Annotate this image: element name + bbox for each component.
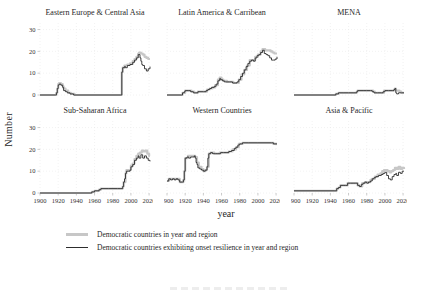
cropped-caption-text xyxy=(170,287,290,290)
legend-line-democratic-swatch xyxy=(66,233,88,236)
panel-plot xyxy=(164,19,280,98)
panel-plot: 1900192019401960198020002020 xyxy=(164,117,280,207)
panel-title: Asia & Pacific xyxy=(291,104,407,117)
x-tick-label: 1920 xyxy=(306,197,319,204)
x-tick-label: 1920 xyxy=(179,197,192,204)
series-democratic xyxy=(40,53,150,96)
series-resilient xyxy=(167,50,277,95)
x-tick-label: 2020 xyxy=(397,197,407,204)
series-resilient xyxy=(294,171,404,191)
panel-plot: 01020301900192019401960198020002020 xyxy=(20,117,153,207)
x-tick-label: 1960 xyxy=(88,197,101,204)
legend-label-resilient: Democratic countries exhibiting onset re… xyxy=(97,243,298,252)
x-tick-label: 1940 xyxy=(324,197,337,204)
x-tick-label: 1940 xyxy=(70,197,83,204)
series-democratic xyxy=(294,167,404,191)
x-tick-label: 1900 xyxy=(34,197,47,204)
panel-plot: 1900192019401960198020002020 xyxy=(291,117,407,207)
panel-western-countries: Western Countries19001920194019601980200… xyxy=(164,104,280,207)
x-tick-label: 1980 xyxy=(233,197,246,204)
x-axis-title: year xyxy=(4,208,428,219)
y-tick-label: 10 xyxy=(29,69,36,76)
figure: Number Eastern Europe & Central Asia0102… xyxy=(0,0,434,292)
series-democratic xyxy=(40,151,150,194)
x-tick-label: 1980 xyxy=(360,197,373,204)
y-tick-label: 30 xyxy=(29,26,36,33)
legend-line-resilient-swatch xyxy=(66,247,88,248)
y-axis-gutter: Number xyxy=(4,6,20,207)
x-tick-label: 2020 xyxy=(143,197,153,204)
x-tick-label: 1960 xyxy=(342,197,355,204)
panel-title: Latin America & Carribean xyxy=(164,6,280,19)
panel-title: Eastern Europe & Central Asia xyxy=(20,6,153,19)
y-tick-label: 0 xyxy=(32,91,35,98)
panels-grid: Eastern Europe & Central Asia0102030Lati… xyxy=(20,6,407,207)
panel-asia-pacific: Asia & Pacific19001920194019601980200020… xyxy=(291,104,407,207)
x-tick-label: 1980 xyxy=(106,197,119,204)
y-tick-label: 10 xyxy=(29,167,36,174)
y-tick-label: 20 xyxy=(29,48,36,55)
panel-title: Sub-Saharan Africa xyxy=(20,104,153,117)
x-tick-label: 1920 xyxy=(52,197,65,204)
x-tick-label: 2000 xyxy=(251,197,264,204)
series-democratic xyxy=(294,89,404,96)
y-tick-label: 20 xyxy=(29,146,36,153)
series-democratic xyxy=(167,143,277,182)
panel-plot xyxy=(291,19,407,98)
legend-item-resilient: Democratic countries exhibiting onset re… xyxy=(66,243,366,252)
panel-latin-america-carribean: Latin America & Carribean xyxy=(164,6,280,98)
legend: Democratic countries in year and region … xyxy=(4,230,428,252)
panel-plot: 0102030 xyxy=(20,19,153,98)
legend-item-democratic: Democratic countries in year and region xyxy=(66,230,366,239)
panel-mena: MENA xyxy=(291,6,407,98)
panel-eastern-europe-central-asia: Eastern Europe & Central Asia0102030 xyxy=(20,6,153,98)
legend-label-democratic: Democratic countries in year and region xyxy=(97,230,218,239)
x-tick-label: 1900 xyxy=(164,197,174,204)
panel-sub-saharan-africa: Sub-Saharan Africa0102030190019201940196… xyxy=(20,104,153,207)
x-tick-label: 2000 xyxy=(124,197,137,204)
plot-area: Number Eastern Europe & Central Asia0102… xyxy=(4,6,428,207)
y-tick-label: 0 xyxy=(32,189,35,196)
x-tick-label: 2000 xyxy=(378,197,391,204)
panel-title: Western Countries xyxy=(164,104,280,117)
y-axis-title: Number xyxy=(3,100,14,160)
series-democratic xyxy=(167,49,277,95)
x-tick-label: 1900 xyxy=(291,197,301,204)
y-tick-label: 30 xyxy=(29,124,36,131)
x-tick-label: 1940 xyxy=(197,197,210,204)
x-tick-label: 1960 xyxy=(215,197,228,204)
x-tick-label: 2020 xyxy=(270,197,280,204)
panel-title: MENA xyxy=(291,6,407,19)
